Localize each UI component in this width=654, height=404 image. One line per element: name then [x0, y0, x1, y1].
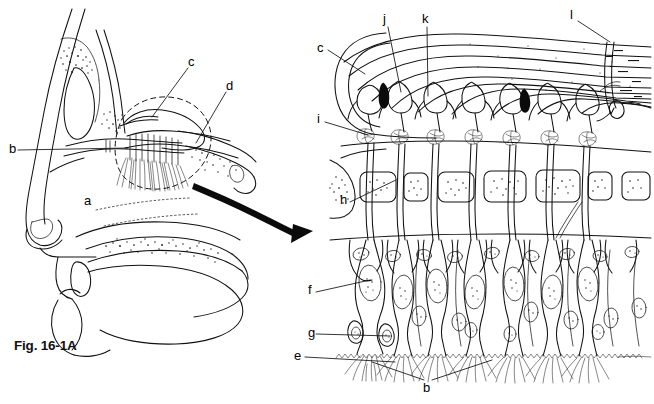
glomerulus-row: [357, 129, 596, 146]
glomerulus: [465, 130, 482, 144]
label-b-olfactory-nerve: b: [9, 142, 16, 155]
glomerulus: [541, 131, 558, 145]
cilia-tuft: [377, 357, 424, 382]
label-g-basal-cell: g: [308, 326, 315, 339]
label-l-olfactory-tract: l: [570, 8, 573, 21]
label-a-nasal-cavity: a: [84, 194, 91, 207]
magnification-arrow: [192, 183, 313, 243]
label-j-mitral-cell: j: [383, 12, 386, 25]
label-h-cribriform-plate: h: [340, 193, 347, 206]
leader-h: [350, 180, 396, 202]
figure-artwork: [0, 0, 654, 404]
label-c-olfactory-bulb-left: c: [188, 55, 195, 68]
glomerulus: [579, 132, 596, 146]
right-detail-drawing: [18, 21, 651, 383]
label-e-mucosa-surface: e: [294, 349, 301, 362]
leader-c-left-panel: [152, 68, 188, 117]
mitral-cell-row: [348, 81, 640, 133]
cilia-tuft: [488, 358, 535, 383]
bone-stipple-frontal: [60, 46, 92, 73]
cilia-tuft: [562, 358, 609, 383]
leader-d-left-panel: [196, 92, 226, 143]
figure-caption: Fig. 16-1A: [14, 338, 77, 353]
label-d-epithelium-region: d: [226, 79, 233, 92]
label-b-olfactory-cilia: b: [423, 381, 430, 394]
olfactory-figure: a b c d c j k l i h f g e b Fig. 16-1A: [0, 0, 654, 404]
leader-l: [578, 21, 610, 42]
label-i-glomerulus: i: [317, 112, 320, 125]
leader-j: [388, 27, 401, 92]
label-c-olfactory-bulb: c: [317, 41, 324, 54]
label-f-receptor-neuron: f: [308, 283, 312, 296]
leader-i: [325, 122, 368, 135]
leader-f: [316, 280, 370, 292]
left-sagittal-drawing: [26, 9, 313, 356]
axon-bundles-through-plate: [366, 143, 590, 240]
leader-c: [328, 50, 365, 74]
glomerulus: [427, 130, 444, 144]
label-k-tufted-cell: k: [422, 12, 429, 25]
bone-stipple-ethmoid: [101, 111, 122, 131]
leader-e: [305, 357, 395, 362]
mucosal-surface-and-cilia: [336, 354, 651, 383]
